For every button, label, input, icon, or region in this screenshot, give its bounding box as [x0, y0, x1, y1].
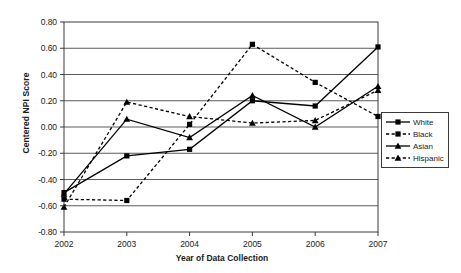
legend-item-black[interactable]: Black [385, 128, 444, 140]
data-point-marker [124, 153, 129, 158]
series-line [64, 86, 378, 194]
legend-square-dashed-icon [385, 129, 411, 139]
legend-triangle-dashed-icon [385, 153, 411, 163]
series-line [64, 47, 378, 193]
data-point-marker [375, 114, 380, 119]
data-point-marker [186, 113, 193, 119]
legend-item-hispanic[interactable]: Hispanic [385, 152, 444, 164]
legend-item-label: Asian [413, 142, 433, 151]
legend-square-solid-icon [385, 117, 411, 127]
data-point-marker [313, 103, 318, 108]
legend-item-label: Black [413, 130, 433, 139]
x-axis-tick-marks [64, 232, 378, 236]
x-tick-label: 2002 [44, 239, 84, 249]
data-point-marker [124, 198, 129, 203]
x-tick-label: 2003 [107, 239, 147, 249]
data-point-marker [249, 92, 256, 98]
legend-item-label: White [413, 118, 433, 127]
data-series-group [61, 42, 382, 210]
x-tick-label: 2007 [358, 239, 398, 249]
x-axis-title: Year of Data Collection [62, 253, 382, 263]
data-point-marker [250, 42, 255, 47]
series-line [64, 44, 378, 200]
legend-triangle-solid-icon [385, 141, 411, 151]
series-hispanic [61, 87, 382, 210]
data-point-marker [187, 147, 192, 152]
legend-item-label: Hispanic [413, 154, 444, 163]
series-white [61, 44, 380, 195]
data-point-marker [123, 116, 130, 122]
data-point-marker [61, 204, 68, 210]
legend: WhiteBlackAsianHispanic [381, 112, 449, 168]
series-black [61, 42, 380, 203]
legend-item-white[interactable]: White [385, 116, 444, 128]
data-point-marker [375, 44, 380, 49]
legend-item-asian[interactable]: Asian [385, 140, 444, 152]
data-point-marker [61, 197, 66, 202]
chart-container: Centered NPI Score -0.80-0.60-0.40-0.200… [0, 0, 461, 273]
x-tick-label: 2006 [295, 239, 335, 249]
data-point-marker [187, 122, 192, 127]
legend-marker-icon [395, 119, 400, 124]
data-point-marker [313, 80, 318, 85]
series-line [64, 90, 378, 207]
x-tick-label: 2004 [170, 239, 210, 249]
x-tick-label: 2005 [232, 239, 272, 249]
data-point-marker [123, 99, 130, 105]
data-point-marker [250, 98, 255, 103]
legend-marker-icon [395, 131, 400, 136]
grid-lines [64, 48, 378, 206]
